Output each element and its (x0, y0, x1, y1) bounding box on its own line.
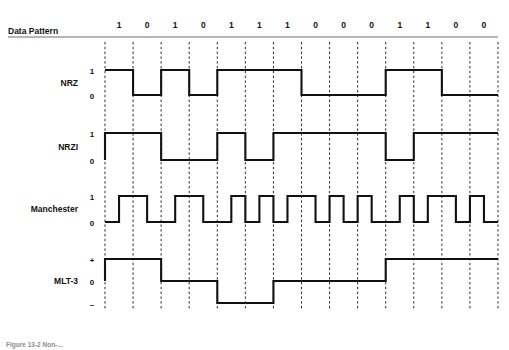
level-label-zero: 0 (90, 219, 95, 228)
data-bit-label: 1 (257, 20, 262, 30)
data-bit-label: 1 (229, 20, 234, 30)
data-bit-label: 0 (145, 20, 150, 30)
row-label-mlt3: MLT-3 (54, 276, 78, 286)
figure-caption: Figure 13-2 Non-... (6, 341, 63, 349)
data-bit-label: 1 (285, 20, 290, 30)
data-bit-label: 0 (313, 20, 318, 30)
level-label-one: 1 (90, 193, 95, 202)
data-bit-label: 0 (454, 20, 459, 30)
level-label-one: 1 (90, 130, 95, 139)
data-bit-label: 0 (482, 20, 487, 30)
data-bit-label: 0 (341, 20, 346, 30)
row-label-nrzi: NRZI (58, 142, 78, 152)
waveform-mlt3 (105, 259, 498, 303)
waveform-nrzi (105, 133, 498, 160)
row-label-manchester: Manchester (31, 204, 79, 214)
level-label-zero: 0 (90, 92, 95, 101)
data-bit-label: 1 (173, 20, 178, 30)
row-label-nrz: NRZ (61, 78, 78, 88)
waveform-nrz (105, 70, 498, 95)
level-label-plus: + (90, 256, 95, 265)
data-bit-label: 1 (397, 20, 402, 30)
level-label-one: 1 (90, 67, 95, 76)
level-label-minus: – (90, 300, 95, 309)
waveform-manchester (105, 196, 498, 222)
data-bit-label: 0 (369, 20, 374, 30)
waveform-canvas: Data Pattern10101110001100NRZ10NRZI10Man… (0, 0, 509, 350)
level-label-zero: 0 (90, 278, 95, 287)
level-label-zero: 0 (90, 157, 95, 166)
data-bit-label: 1 (117, 20, 122, 30)
data-bit-label: 0 (201, 20, 206, 30)
data-pattern-label: Data Pattern (8, 26, 58, 36)
data-bit-label: 1 (425, 20, 430, 30)
line-coding-figure: Data Pattern10101110001100NRZ10NRZI10Man… (0, 0, 509, 350)
